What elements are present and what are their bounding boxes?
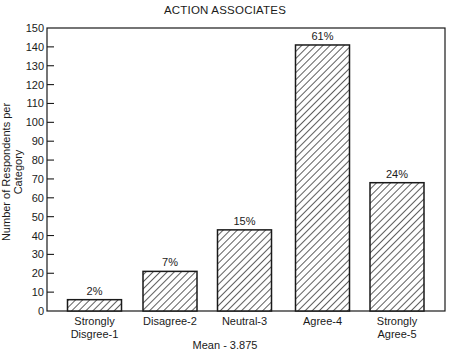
y-tick-label: 70 xyxy=(32,173,44,185)
y-tick-label: 80 xyxy=(32,154,44,166)
y-tick-label: 60 xyxy=(32,192,44,204)
bar xyxy=(296,45,350,311)
bar-data-label: 61% xyxy=(311,30,333,42)
bar xyxy=(143,271,197,311)
y-tick-label: 50 xyxy=(32,211,44,223)
y-tick-label: 120 xyxy=(26,79,44,91)
x-category-label: Neutral-3 xyxy=(222,315,267,327)
bars: 2%7%15%61%24% xyxy=(68,30,425,311)
x-category-label: Strongly xyxy=(74,315,115,327)
bar xyxy=(370,183,424,311)
bar xyxy=(218,230,272,311)
x-category-label: Disagree-2 xyxy=(143,315,197,327)
y-tick-label: 10 xyxy=(32,286,44,298)
y-tick-label: 110 xyxy=(26,97,44,109)
y-tick-label: 130 xyxy=(26,60,44,72)
x-axis-categories: StronglyDisgree-1Disagree-2Neutral-3Agre… xyxy=(71,315,418,340)
y-tick-label: 30 xyxy=(32,248,44,260)
y-tick-label: 150 xyxy=(26,22,44,34)
x-category-label: Strongly xyxy=(377,315,418,327)
y-tick-label: 100 xyxy=(26,116,44,128)
bar xyxy=(68,300,122,311)
y-tick-label: 90 xyxy=(32,135,44,147)
y-tick-label: 40 xyxy=(32,230,44,242)
x-category-label: Agree-4 xyxy=(303,315,342,327)
bar-data-label: 24% xyxy=(386,168,408,180)
y-tick-label: 20 xyxy=(32,267,44,279)
bar-data-label: 7% xyxy=(162,256,178,268)
bar-chart: 0102030405060708090100110120130140150 2%… xyxy=(0,0,450,357)
bar-data-label: 15% xyxy=(233,215,255,227)
x-axis-label-mean: Mean - 3.875 xyxy=(0,339,450,351)
bar-data-label: 2% xyxy=(87,285,103,297)
y-tick-label: 0 xyxy=(38,305,44,317)
y-tick-label: 140 xyxy=(26,41,44,53)
y-axis-ticks: 0102030405060708090100110120130140150 xyxy=(26,22,54,317)
